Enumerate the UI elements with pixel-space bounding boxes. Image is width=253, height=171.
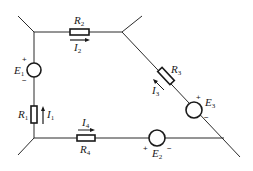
svg-text:R1: R1 bbox=[17, 108, 29, 122]
svg-text:R4: R4 bbox=[79, 143, 91, 157]
current-i2: I2 bbox=[70, 38, 90, 55]
resistor-r4: R4 bbox=[77, 135, 95, 157]
current-i1: I1 bbox=[41, 106, 55, 124]
circuit-diagram: R2 I2 + − E1 R1 I1 R4 I4 + − E2 bbox=[0, 0, 253, 171]
svg-text:I4: I4 bbox=[81, 116, 90, 130]
arrow-up-icon bbox=[41, 106, 45, 111]
svg-text:E3: E3 bbox=[204, 96, 216, 110]
top-right-stub bbox=[122, 16, 142, 32]
svg-text:+: + bbox=[196, 93, 201, 102]
current-i3: I3 bbox=[151, 79, 164, 98]
arrow-right-icon bbox=[85, 38, 90, 42]
svg-text:+: + bbox=[143, 144, 148, 153]
svg-text:E1: E1 bbox=[13, 64, 25, 78]
resistor-r3: R3 bbox=[158, 63, 182, 85]
top-left-stub bbox=[18, 16, 34, 32]
svg-text:I2: I2 bbox=[73, 41, 82, 55]
svg-text:+: + bbox=[22, 55, 27, 64]
arrow-right-icon bbox=[90, 128, 95, 132]
svg-text:E2: E2 bbox=[151, 147, 163, 161]
resistor-r1: R1 bbox=[17, 106, 37, 123]
svg-text:−: − bbox=[204, 113, 209, 122]
wires bbox=[18, 16, 240, 157]
source-e1: + − E1 bbox=[13, 55, 41, 85]
svg-text:R2: R2 bbox=[73, 14, 85, 28]
svg-text:R3: R3 bbox=[170, 63, 182, 77]
resistor-r2: R2 bbox=[70, 14, 89, 35]
svg-text:−: − bbox=[167, 144, 172, 153]
svg-text:I1: I1 bbox=[46, 108, 55, 122]
source-e3: + − E3 bbox=[186, 93, 216, 122]
bottom-left-stub bbox=[18, 138, 34, 155]
source-e2: + − E2 bbox=[143, 130, 172, 161]
svg-text:I3: I3 bbox=[151, 84, 160, 98]
current-i4: I4 bbox=[78, 116, 95, 132]
